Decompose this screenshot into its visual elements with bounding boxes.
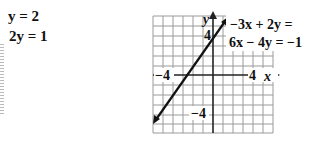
- tick-label-y-neg4: −4: [191, 106, 206, 121]
- graph-equation-1: −3x + 2y =: [230, 17, 292, 32]
- y-axis-arrow-icon: [209, 11, 217, 19]
- x-axis-label: x: [263, 69, 271, 84]
- tick-label-x-pos4: 4: [249, 68, 256, 83]
- coordinate-graph: −3x + 2y = 6x − 4y = −1 y x −4 4 4 −4: [0, 0, 314, 148]
- y-axis-label: y: [201, 12, 210, 27]
- tick-label-y-pos4: 4: [204, 28, 211, 43]
- tick-label-x-neg4: −4: [155, 68, 170, 83]
- graph-equation-2: 6x − 4y = −1: [229, 35, 302, 50]
